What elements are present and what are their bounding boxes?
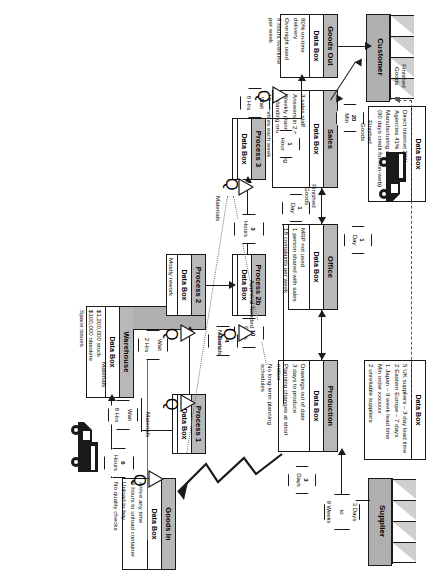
- databox-title: Data Box: [309, 15, 323, 77]
- timing-value: 1: [297, 206, 303, 209]
- information-flow-dashed: [411, 100, 412, 400]
- timing-1-hour: 1 Hour: [272, 130, 300, 158]
- process-title: Office: [323, 225, 337, 309]
- timing-value: Wait: [126, 408, 133, 422]
- delivery-truck-icon: [68, 418, 108, 474]
- timing-3-hours: 3 Hours: [234, 214, 264, 244]
- value-stream-map-image: Customer Data Box Direct Internet 28% Ag…: [0, 0, 434, 578]
- databox-line: 2 unreliable suppliers: [368, 364, 375, 456]
- timing-value: 3 Days: [352, 500, 359, 523]
- external-label-customer: Customer: [376, 14, 385, 100]
- databox-line: 1 Japan – 9 week lead time: [385, 364, 392, 456]
- databox-supplier: Data Box 5 UK suppliers – 3 day lead tim…: [364, 360, 426, 460]
- timing-unit: Min: [343, 113, 350, 123]
- databox-line: 80% on-time delivery: [292, 18, 307, 74]
- process-title: Production: [323, 361, 337, 451]
- databox-line: 5 UK suppliers – 3 day lead time: [402, 364, 409, 456]
- information-flow-dashed: [398, 100, 412, 101]
- external-label-supplier: Supplier: [378, 478, 387, 564]
- databox-body: [233, 119, 237, 179]
- databox-title: Data Box: [411, 361, 425, 459]
- process-title: Process 3: [251, 119, 265, 179]
- inventory-qty: Q: [254, 90, 272, 102]
- timing-value: 20: [351, 115, 357, 122]
- timing-unit-2: 9 Weeks: [326, 500, 333, 523]
- databox-body: MRP not used 1 person shared with sales …: [280, 225, 309, 309]
- databox-line: Mostly rework: [168, 258, 175, 312]
- timing-1-day-office: 1 Day: [344, 226, 372, 254]
- databox-line: No long-term planning schedules: [260, 364, 275, 448]
- timing-unit: 8 Hrs: [245, 96, 252, 110]
- label-materials-1: Materials: [215, 196, 222, 221]
- external-entity-supplier: Supplier: [370, 478, 418, 564]
- timing-value: 3: [250, 227, 256, 230]
- inventory-qty: Q: [130, 474, 148, 486]
- external-entity-customer: Customer: [368, 14, 416, 100]
- databox-line: Space issues: [79, 310, 86, 394]
- inventory-triangle: Q: [176, 394, 196, 412]
- process-process-2: Process 2 Data Box Mostly rework: [166, 254, 206, 316]
- databox-line: $100,000 obsolete: [87, 310, 94, 394]
- label-materials-4: Materials: [101, 362, 108, 387]
- process-title: Warehouse: [119, 307, 133, 397]
- databox-title: Data Box: [147, 479, 161, 569]
- inventory-triangle: Q: [268, 86, 288, 104]
- process-production: Production Data Box Drawings out of date…: [278, 360, 338, 452]
- label-materials-2: Materials: [217, 330, 224, 355]
- timing-unit: Hour: [279, 137, 286, 150]
- timing-value: 1: [287, 142, 293, 145]
- timing-wait-8hrs-warehouse: Wait 8 Hrs: [108, 400, 138, 430]
- databox-body: Mostly rework: [165, 255, 177, 315]
- timing-unit: Hours: [242, 221, 249, 237]
- databox-title: Data Box: [309, 225, 323, 309]
- timing-unit: Days: [295, 473, 302, 487]
- timing-unit: Hours: [112, 455, 119, 471]
- timing-unit: Day: [351, 235, 358, 246]
- databox-line: Arrive any time: [138, 482, 145, 566]
- process-title: Process 2: [191, 255, 205, 315]
- databox-line: Drawings out of date: [300, 364, 307, 448]
- databox-title: Data Box: [177, 255, 191, 315]
- databox-body: Arrive any time 6 hours to unload contai…: [109, 479, 147, 569]
- databox-line: 2 Eastern Europe – 7 days: [393, 364, 400, 456]
- process-title: Sales: [323, 91, 337, 187]
- databox-title: Data Box: [309, 91, 323, 187]
- timing-value: 6: [120, 461, 126, 464]
- inventory-qty: Q: [162, 398, 180, 410]
- process-process-3: Process 3 Data Box: [232, 118, 266, 180]
- databox-line: Overnight used: [284, 18, 291, 74]
- inventory-qty: Q: [162, 328, 180, 340]
- databox-line: 1 person shared with sales: [291, 228, 298, 306]
- inventory-triangle: Q: [222, 178, 254, 194]
- timing-unit: to: [339, 500, 346, 523]
- timing-unit: 8 Hrs: [113, 408, 120, 422]
- push-arrow-production: [166, 452, 284, 532]
- databox-line: Unload to bay: [121, 482, 128, 566]
- databox-line: 6 hours to unload container: [129, 482, 136, 566]
- databox-line: Min order xxxxxxx: [376, 364, 383, 456]
- label-approval-needed: Approval Needed: [249, 276, 256, 332]
- label-finished-goods-2: Finished Goods: [360, 112, 374, 152]
- process-office: Office Data Box MRP not used 1 person sh…: [288, 224, 338, 310]
- label-finished-goods-3: Finished Goods: [304, 176, 318, 216]
- timing-value: 3: [303, 478, 309, 481]
- databox-body: 80% on-time delivery Overnight used 8 ho…: [265, 15, 309, 77]
- databox-line: 3 days to produce: [291, 364, 298, 448]
- label-finished-goods-1: Finished Goods: [394, 56, 408, 96]
- timing-3-days: 3 Days: [288, 466, 316, 494]
- label-materials-3: Materials: [145, 412, 152, 437]
- timing-unit: 2 Hrs: [143, 338, 150, 352]
- process-title: Goods Out: [323, 15, 337, 77]
- databox-title: Data Box: [237, 119, 251, 179]
- value-stream-map-canvas: Customer Data Box Direct Internet 28% Ag…: [0, 0, 434, 578]
- process-goods-out: Goods Out Data Box 80% on-time delivery …: [280, 14, 338, 78]
- inventory-triangle: Q: [144, 470, 164, 488]
- timing-value: 1: [359, 238, 365, 241]
- databox-title: Data Box: [309, 361, 323, 451]
- process-warehouse: Warehouse Data Box $1,200,000 stock $100…: [86, 306, 134, 398]
- databox-line: No quality checks: [112, 482, 119, 566]
- databox-body: 5 UK suppliers – 3 day lead time 2 Easte…: [365, 361, 411, 459]
- databox-line: MRP not used: [300, 228, 307, 306]
- inventory-triangle: Q: [176, 324, 196, 342]
- databox-line: 8 hours overtime per week: [268, 18, 283, 74]
